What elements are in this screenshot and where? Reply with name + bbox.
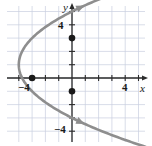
grid-lines bbox=[7, 6, 145, 142]
x-tick-label-4: 4 bbox=[122, 82, 128, 93]
axis-ticks bbox=[19, 12, 139, 132]
y-tick-label-neg4: −4 bbox=[54, 124, 66, 135]
x-tick-label-neg4: −4 bbox=[18, 82, 30, 93]
x-axis-label: x bbox=[140, 83, 145, 94]
y-tick-label-4: 4 bbox=[58, 20, 64, 31]
coordinate-plane-svg bbox=[0, 0, 152, 146]
graph-figure: y x −4 4 4 −4 bbox=[0, 0, 152, 146]
y-axis-label: y bbox=[63, 2, 68, 13]
parabola-curve bbox=[19, 0, 146, 146]
